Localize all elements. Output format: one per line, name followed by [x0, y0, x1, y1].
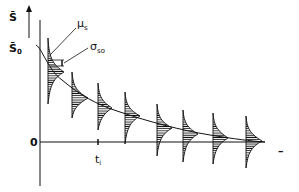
distribution-1	[48, 38, 64, 104]
mean-label: μs	[77, 17, 88, 32]
sigma-leader-line	[64, 48, 88, 63]
distribution-8	[246, 116, 262, 168]
initial-value-label: S̄0	[9, 42, 22, 56]
y-axis-label: S̄	[9, 11, 17, 24]
distribution-7	[213, 113, 228, 164]
sigma-label: σso	[90, 40, 105, 55]
mean-decay-curve	[36, 45, 265, 142]
zero-label: 0	[30, 136, 38, 149]
distribution-5	[157, 104, 172, 156]
time-label: ti	[95, 153, 101, 167]
up-arrow-icon	[26, 5, 32, 38]
distribution-6	[183, 110, 198, 162]
distribution-3	[98, 83, 112, 130]
distribution-2	[72, 72, 88, 118]
x-axis-end-mark: –	[278, 145, 284, 158]
decay-distribution-diagram: S̄ S̄0 0 ti μs σso –	[0, 0, 299, 192]
mean-leader-line	[50, 28, 76, 55]
